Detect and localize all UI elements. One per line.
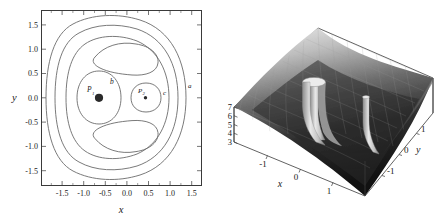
- y-tick-labels: 1.5 1.0 0.5 0.0 -0.5 -1.0 -1.5: [25, 21, 38, 176]
- y-tick-label-2: -0.5: [25, 118, 38, 127]
- x-tick-label-3: 0.0: [122, 189, 132, 198]
- x3d-tick-label-2: 1: [327, 186, 332, 196]
- y-tick-label-0: -1.5: [25, 167, 38, 176]
- y-tick-label-1: -1.0: [25, 142, 38, 151]
- contour-plot-panel: a b c P 1 P 2 -1.5 -1.0 -0.5 0.0 0.5 1.0…: [0, 0, 222, 220]
- x-tick-labels: -1.5 -1.0 -0.5 0.0 0.5 1.0 1.5: [56, 189, 197, 198]
- x-tick-label-4: 0.5: [144, 189, 154, 198]
- surface-plot-panel: 7 6 5 4 3 C J -1 0 1 x: [222, 0, 444, 220]
- z-tick-label-0: 3: [228, 137, 232, 147]
- x-tick-label-0: -1.5: [56, 189, 69, 198]
- spike-2-cap: [363, 96, 370, 99]
- x-tick-label-5: 1.0: [165, 189, 175, 198]
- y3d-tick-label-1: 0: [404, 145, 409, 155]
- x3d-tick-label-0: -1: [259, 159, 267, 169]
- y-tick-label-6: 1.5: [28, 21, 38, 30]
- y-tick-label-5: 1.0: [28, 45, 38, 54]
- x-axis-title: x: [118, 204, 124, 215]
- y-axis-title: y: [11, 92, 17, 103]
- contour-plot-svg: a b c P 1 P 2 -1.5 -1.0 -0.5 0.0 0.5 1.0…: [0, 0, 222, 220]
- label-curve-b: b: [110, 77, 114, 86]
- surface-mesh: [234, 28, 433, 196]
- y3d-axis-title: y: [415, 144, 421, 155]
- y3d-tick-label-2: -1: [387, 166, 395, 176]
- z-tick-labels: 7 6 5 4 3: [228, 102, 233, 147]
- x3d-tick-label-1: 0: [294, 172, 299, 182]
- surface-plot-svg: 7 6 5 4 3 C J -1 0 1 x: [222, 0, 444, 220]
- x3d-axis-title: x: [277, 178, 283, 189]
- y-tick-label-4: 0.5: [28, 69, 38, 78]
- point-P1: [95, 94, 103, 102]
- label-P1-subscript: 1: [92, 91, 95, 96]
- x-tick-label-2: -0.5: [99, 189, 112, 198]
- y-tick-label-3: 0.0: [28, 94, 38, 103]
- x-tick-label-6: 1.5: [187, 189, 197, 198]
- figure-root: a b c P 1 P 2 -1.5 -1.0 -0.5 0.0 0.5 1.0…: [0, 0, 444, 220]
- z-axis-ticks: [234, 107, 238, 144]
- x-tick-label-1: -1.0: [77, 189, 90, 198]
- y3d-tick-label-0: 1: [421, 124, 426, 134]
- label-curve-a: a: [188, 82, 192, 90]
- point-P2: [144, 96, 147, 99]
